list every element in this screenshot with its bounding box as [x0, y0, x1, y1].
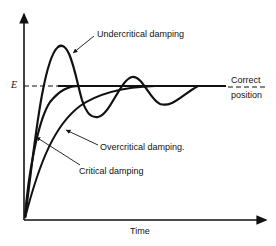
critical-curve [25, 86, 80, 218]
overcritical-curve [25, 86, 155, 218]
undercritical-label: Undercritical damping [97, 29, 184, 39]
undercritical-leader [73, 36, 94, 53]
damping-diagram: Undercritical damping E Correct position… [0, 0, 276, 246]
correct-position-label-line1: Correct [231, 75, 261, 85]
undercritical-curve [25, 46, 198, 218]
e-label: E [11, 80, 17, 90]
overcritical-label: Overcritical damping. [100, 142, 185, 152]
critical-label: Critical damping [79, 166, 144, 176]
overcritical-leader [66, 130, 98, 145]
x-axis-label: Time [130, 226, 150, 236]
correct-position-label-line2: position [231, 90, 262, 100]
